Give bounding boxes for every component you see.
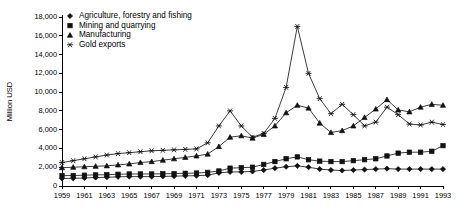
point-marker-square [105, 173, 109, 177]
point-marker-star [126, 150, 132, 155]
point-marker-star [104, 153, 110, 158]
y-axis-tick-label: 0 [53, 181, 57, 190]
legend-label-1: Mining and quarrying [79, 21, 156, 30]
legend-label-2: Manufacturing [79, 30, 131, 39]
point-marker-square [385, 154, 389, 158]
point-marker-square [295, 155, 299, 159]
point-marker-square [228, 166, 232, 170]
y-axis-tick-label: 4,000 [39, 143, 58, 152]
x-axis-tick-label: 1983 [323, 191, 339, 200]
point-marker-square [239, 165, 243, 169]
point-marker-diamond [351, 167, 356, 172]
point-marker-square [60, 173, 64, 177]
point-marker-square [194, 171, 198, 175]
y-axis-tick-label: 10,000 [34, 87, 57, 96]
point-marker-star [216, 124, 222, 129]
x-axis-tick-label: 1993 [435, 191, 451, 200]
x-axis-tick-label: 1961 [76, 191, 92, 200]
point-marker-square [261, 162, 265, 166]
point-marker-square [284, 157, 288, 161]
point-marker-square [340, 159, 344, 163]
y-axis-tick-label: 12,000 [34, 68, 57, 77]
point-marker-triangle [205, 151, 210, 156]
x-axis-tick-label: 1981 [300, 191, 316, 200]
point-marker-diamond [407, 167, 412, 172]
point-marker-square [250, 165, 254, 169]
point-marker-square [217, 169, 221, 173]
point-marker-star [149, 148, 155, 153]
y-axis-tick-label: 14,000 [34, 50, 57, 59]
point-marker-star [70, 158, 76, 163]
point-marker-square [396, 151, 400, 155]
x-axis-tick-label: 1973 [211, 191, 227, 200]
point-marker-diamond [272, 166, 277, 171]
point-marker-triangle [384, 97, 389, 102]
point-marker-square [362, 158, 366, 162]
point-marker-diamond [306, 165, 311, 170]
point-marker-star [160, 148, 166, 153]
point-marker-diamond [67, 13, 72, 18]
point-marker-star [182, 147, 188, 152]
point-marker-triangle [239, 133, 244, 138]
y-axis-tick-label: 6,000 [39, 125, 58, 134]
legend-label-3: Gold exports [79, 40, 125, 49]
point-marker-diamond [429, 167, 434, 172]
point-marker-square [82, 173, 86, 177]
line-chart: 02,0004,0006,0008,00010,00012,00014,0001… [0, 0, 457, 211]
point-marker-square [318, 159, 322, 163]
point-marker-square [161, 172, 165, 176]
point-marker-star [272, 116, 278, 121]
point-marker-diamond [373, 167, 378, 172]
y-axis-tick-label: 2,000 [39, 162, 58, 171]
x-axis-tick-label: 1971 [188, 191, 204, 200]
point-marker-star [67, 42, 73, 47]
point-marker-star [81, 156, 87, 161]
point-marker-star [227, 108, 233, 113]
point-marker-diamond [317, 167, 322, 172]
point-marker-star [93, 155, 99, 160]
point-marker-square [407, 150, 411, 154]
point-marker-star [429, 120, 435, 125]
point-marker-diamond [284, 164, 289, 169]
point-marker-square [374, 157, 378, 161]
x-axis-tick-label: 1991 [412, 191, 428, 200]
point-marker-square [351, 158, 355, 162]
point-marker-square [127, 172, 131, 176]
x-axis-tick-label: 1975 [233, 191, 249, 200]
point-marker-square [430, 149, 434, 153]
point-marker-star [115, 151, 121, 156]
y-axis-tick-label: 8,000 [39, 106, 58, 115]
y-axis-tick-label: 16,000 [34, 31, 57, 40]
x-axis-tick-label: 1959 [54, 191, 70, 200]
point-marker-star [418, 123, 424, 128]
point-marker-star [171, 147, 177, 152]
point-marker-star [373, 120, 379, 125]
point-marker-triangle [284, 110, 289, 115]
x-axis-tick-label: 1967 [143, 191, 159, 200]
point-marker-square [205, 170, 209, 174]
point-marker-triangle [340, 128, 345, 133]
point-marker-diamond [261, 167, 266, 172]
point-marker-diamond [384, 166, 389, 171]
point-marker-square [68, 23, 72, 27]
point-marker-star [137, 149, 143, 154]
point-marker-square [306, 158, 310, 162]
y-axis-tick-label: 18,000 [34, 12, 57, 21]
point-marker-square [149, 172, 153, 176]
x-axis-tick-label: 1963 [99, 191, 115, 200]
point-marker-triangle [67, 33, 72, 38]
x-axis-tick-label: 1987 [368, 191, 384, 200]
point-marker-diamond [295, 163, 300, 168]
chart-container: 02,0004,0006,0008,00010,00012,00014,0001… [0, 0, 457, 211]
point-marker-square [273, 159, 277, 163]
point-marker-diamond [396, 167, 401, 172]
point-marker-square [93, 173, 97, 177]
legend-label-0: Agriculture, forestry and fishing [79, 11, 192, 20]
point-marker-star [440, 122, 446, 127]
x-axis-tick-label: 1965 [121, 191, 137, 200]
x-axis-tick-label: 1985 [345, 191, 361, 200]
point-marker-square [183, 171, 187, 175]
x-axis-tick-label: 1979 [278, 191, 294, 200]
point-marker-diamond [440, 167, 445, 172]
point-marker-square [329, 159, 333, 163]
